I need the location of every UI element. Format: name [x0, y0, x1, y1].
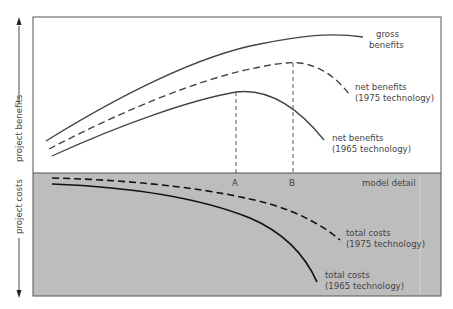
net-benefits-1965-curve: [52, 92, 324, 156]
cost75-label-1: total costs: [346, 228, 391, 238]
cost75-label-2: (1975 technology): [346, 239, 425, 249]
gross-benefits-label-2: benefits: [369, 40, 404, 50]
arrow-up-icon: [17, 17, 22, 25]
net75-label-1: net benefits: [355, 82, 407, 92]
y-label-costs: project costs: [14, 179, 24, 234]
y-label-benefits: project benefits: [14, 94, 24, 162]
net-benefits-1975-curve: [49, 63, 350, 149]
cost65-label-2: (1965 technology): [325, 281, 404, 291]
marker-a-label: A: [232, 178, 238, 188]
net65-label-2: (1965 technology): [332, 144, 411, 154]
diagram: project benefits project costs A B model…: [0, 0, 453, 309]
marker-b-label: B: [289, 178, 295, 188]
net75-label-2: (1975 technology): [355, 93, 434, 103]
gross-benefits-curve: [46, 35, 363, 141]
cost65-label-1: total costs: [325, 270, 370, 280]
arrow-down-icon: [17, 290, 22, 298]
x-axis-label: model detail: [362, 178, 416, 188]
gross-benefits-label-1: gross: [376, 29, 400, 39]
net65-label-1: net benefits: [332, 133, 384, 143]
